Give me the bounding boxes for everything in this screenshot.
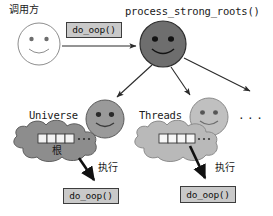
diagram-canvas: 调用方 process_strong_roots() Universe Thre… [0,0,273,216]
call-box-threads: do_oop() [180,186,236,203]
call-box-universe: do_oop() [63,188,119,204]
call-box-top: do_oop() [66,22,122,38]
arrow-root-to-threads [171,67,190,95]
arrow-universe-exec [79,158,94,180]
universe-root-label: 根 [52,146,62,156]
arrow-root-to-more [184,58,250,91]
root-call-label: process_strong_roots() [125,6,260,17]
more-branches-ellipsis: ... [238,110,265,121]
root-face-icon [140,21,186,67]
universe-exec-label: 执行 [98,163,118,173]
universe-face-icon [86,100,124,138]
threads-label: Threads [139,110,182,121]
caller-label: 调用方 [9,5,39,15]
diagram-graphics [0,0,273,216]
arrow-root-to-universe [117,65,152,97]
caller-face-icon [18,23,60,65]
universe-label: Universe [29,110,78,121]
threads-exec-label: 执行 [215,163,235,173]
